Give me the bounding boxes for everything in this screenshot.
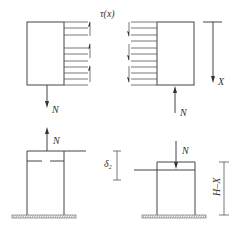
height-label: H–X — [211, 177, 222, 197]
shear-up-arrows — [88, 21, 90, 82]
arrow-up-icon — [88, 65, 90, 82]
shear-stress-lines — [64, 22, 88, 85]
panel-bottom-right: N H–X — [134, 141, 229, 218]
force-arrow-down-icon — [174, 141, 178, 169]
panel-top-right: N X — [127, 22, 225, 118]
pile-body — [27, 151, 86, 215]
force-arrow-up-icon — [45, 127, 49, 151]
axis-label-x: X — [217, 76, 225, 87]
force-label-n: N — [51, 104, 60, 115]
shear-stress-label: τ(x) — [100, 8, 115, 20]
panel-top-left: τ(x) N — [27, 8, 115, 115]
pile-segment-rect — [27, 22, 64, 85]
force-arrow-down-icon — [45, 85, 49, 108]
force-label-n: N — [52, 135, 61, 146]
arrow-down-icon — [127, 22, 129, 37]
force-label-n: N — [181, 145, 190, 156]
shear-stress-lines — [131, 22, 157, 85]
force-arrow-up-icon — [173, 86, 177, 113]
shear-down-arrows — [127, 22, 129, 83]
displacement-label: δ2 — [104, 158, 112, 170]
displacement-dimension — [113, 151, 121, 180]
arrow-down-icon — [127, 66, 129, 83]
arrow-up-icon — [88, 21, 90, 36]
pile-segment-rect — [157, 22, 194, 85]
pile-body — [134, 162, 195, 215]
arrow-down-icon — [127, 44, 129, 61]
depth-axis — [203, 22, 222, 83]
diagram-canvas: τ(x) N — [0, 0, 236, 235]
ground-hatch — [12, 215, 76, 218]
arrow-up-icon — [88, 43, 90, 58]
panel-bottom-left: N δ2 — [12, 127, 121, 218]
ground-hatch — [142, 215, 206, 218]
force-label-n: N — [179, 107, 188, 118]
